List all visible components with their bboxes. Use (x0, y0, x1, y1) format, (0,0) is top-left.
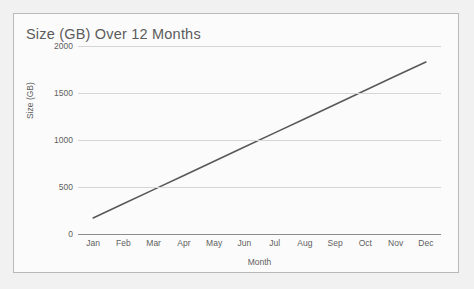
chart-card: Size (GB) Over 12 Months 050010001500200… (13, 13, 459, 273)
y-axis-tick-label: 500 (59, 182, 73, 192)
plot-area: 0500100015002000 (78, 46, 441, 234)
chart-title: Size (GB) Over 12 Months (26, 26, 201, 42)
x-axis-tick-label: Oct (350, 238, 380, 248)
x-axis-baseline: 0 (78, 234, 441, 235)
gridline-2000: 2000 (78, 46, 441, 47)
x-axis-tick-label: Jan (78, 238, 108, 248)
y-axis-tick-label: 0 (68, 229, 73, 239)
x-axis-tick-label: May (199, 238, 229, 248)
x-axis-tick-label: Sep (320, 238, 350, 248)
x-axis-tick-label: Jun (229, 238, 259, 248)
gridline-1000: 1000 (78, 140, 441, 141)
gridline-500: 500 (78, 187, 441, 188)
y-axis-tick-label: 2000 (54, 41, 73, 51)
x-axis-tick-label: Mar (139, 238, 169, 248)
screenshot-root: Size (GB) Over 12 Months 050010001500200… (0, 0, 474, 289)
x-axis-tick-labels: JanFebMarAprMayJunJulAugSepOctNovDec (78, 238, 441, 248)
y-axis-title: Size (GB) (25, 82, 35, 119)
x-axis-tick-label: Feb (108, 238, 138, 248)
y-axis-tick-label: 1500 (54, 88, 73, 98)
x-axis-tick-label: Jul (260, 238, 290, 248)
x-axis-tick-label: Dec (411, 238, 441, 248)
x-axis-title: Month (78, 257, 441, 267)
x-axis-tick-label: Apr (169, 238, 199, 248)
gridline-1500: 1500 (78, 93, 441, 94)
x-axis-tick-label: Nov (381, 238, 411, 248)
y-axis-tick-label: 1000 (54, 135, 73, 145)
x-axis-tick-label: Aug (290, 238, 320, 248)
